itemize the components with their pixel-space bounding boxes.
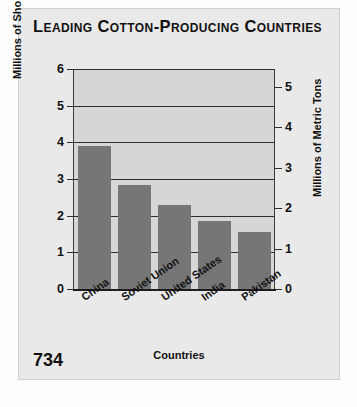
y-axis-left-tick-label: 0 bbox=[57, 282, 64, 296]
page-panel: Leading Cotton-Producing Countries Milli… bbox=[18, 8, 340, 380]
y-axis-right-tick bbox=[275, 87, 282, 88]
y-axis-right-tick-label: 4 bbox=[285, 120, 292, 134]
gridline bbox=[74, 142, 274, 143]
bar bbox=[78, 146, 111, 289]
y-axis-right-tick bbox=[275, 249, 282, 250]
y-axis-right-tick-label: 3 bbox=[285, 161, 292, 175]
y-axis-left-tick-label: 6 bbox=[57, 62, 64, 76]
y-axis-right-tick-label: 0 bbox=[285, 282, 292, 296]
y-axis-right-tick-label: 1 bbox=[285, 242, 292, 256]
y-axis-left-tick bbox=[67, 216, 74, 217]
y-axis-right-tick-label: 2 bbox=[285, 201, 292, 215]
y-axis-left-tick bbox=[67, 106, 74, 107]
y-axis-right-title: Millions of Metric Tons bbox=[311, 79, 323, 197]
y-axis-right-tick-label: 5 bbox=[285, 80, 292, 94]
x-axis-title: Countries bbox=[19, 349, 339, 361]
y-axis-left-tick-label: 4 bbox=[57, 135, 64, 149]
y-axis-left-tick bbox=[67, 142, 74, 143]
y-axis-right-tick bbox=[275, 168, 282, 169]
page-title: Leading Cotton-Producing Countries bbox=[33, 17, 323, 36]
y-axis-left-title: Millions of Short Tons bbox=[11, 0, 23, 79]
y-axis-left-tick-label: 3 bbox=[57, 172, 64, 186]
gridline bbox=[74, 69, 274, 70]
y-axis-left-tick-label: 5 bbox=[57, 99, 64, 113]
y-axis-left-tick bbox=[67, 179, 74, 180]
y-axis-right-tick bbox=[275, 208, 282, 209]
y-axis-left-tick-label: 1 bbox=[57, 245, 64, 259]
y-axis-left-tick bbox=[67, 69, 74, 70]
gridline bbox=[74, 106, 274, 107]
page-number: 734 bbox=[33, 350, 63, 371]
y-axis-right-tick bbox=[275, 289, 282, 290]
y-axis-left-tick-label: 2 bbox=[57, 209, 64, 223]
y-axis-left-tick bbox=[67, 252, 74, 253]
y-axis-right-tick bbox=[275, 127, 282, 128]
